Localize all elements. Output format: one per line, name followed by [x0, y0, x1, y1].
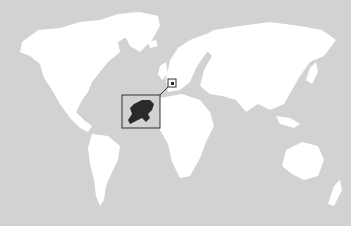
- world-map: [0, 0, 351, 226]
- locator-marker-fill: [171, 82, 174, 85]
